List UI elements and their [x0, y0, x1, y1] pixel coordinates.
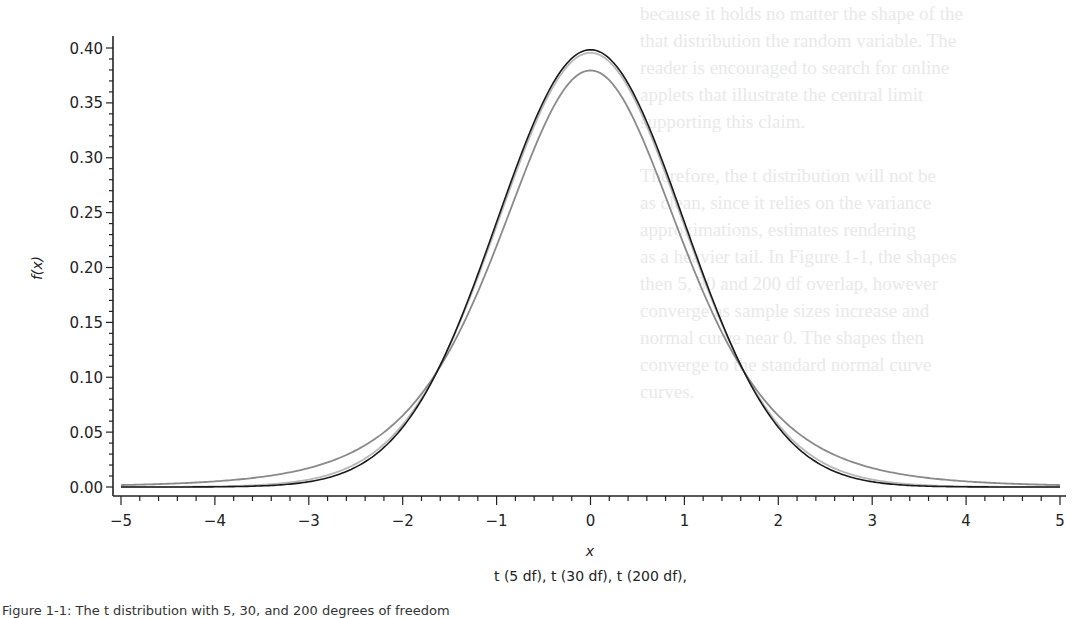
- curve-t-30-df: [121, 53, 1060, 487]
- y-tick-label: 0.35: [70, 94, 103, 112]
- y-tick-label: 0.15: [70, 314, 103, 332]
- x-tick-label: 3: [867, 512, 877, 530]
- x-tick-label: 5: [1055, 512, 1065, 530]
- y-tick-label: 0.40: [70, 40, 103, 58]
- x-tick-label: −1: [486, 512, 508, 530]
- y-axis: 0.000.050.100.150.200.250.300.350.40: [70, 36, 113, 497]
- y-axis-title: f(x): [29, 256, 45, 280]
- legend-text: t (5 df), t (30 df), t (200 df),: [494, 568, 687, 584]
- curve-t-5-df: [121, 70, 1060, 485]
- y-tick-label: 0.05: [70, 424, 103, 442]
- x-tick-label: −2: [392, 512, 414, 530]
- x-tick-label: −3: [298, 512, 320, 530]
- x-axis: −5−4−3−2−1012345: [110, 496, 1066, 530]
- t-distribution-chart: 0.000.050.100.150.200.250.300.350.40 −5−…: [0, 0, 1090, 618]
- x-axis-title: x: [585, 543, 595, 559]
- y-tick-label: 0.25: [70, 204, 103, 222]
- x-tick-label: 4: [961, 512, 971, 530]
- density-curves: [121, 50, 1060, 487]
- x-tick-label: −4: [204, 512, 226, 530]
- y-tick-label: 0.20: [70, 259, 103, 277]
- x-tick-label: −5: [110, 512, 132, 530]
- curve-t-200-df: [121, 50, 1060, 487]
- y-tick-label: 0.10: [70, 369, 103, 387]
- y-tick-label: 0.30: [70, 149, 103, 167]
- x-tick-label: 1: [680, 512, 690, 530]
- legend-caption: t (5 df), t (30 df), t (200 df),: [0, 568, 1090, 584]
- x-tick-label: 2: [774, 512, 784, 530]
- figure-caption: Figure 1-1: The t distribution with 5, 3…: [2, 603, 450, 618]
- x-tick-label: 0: [586, 512, 596, 530]
- y-tick-label: 0.00: [70, 479, 103, 497]
